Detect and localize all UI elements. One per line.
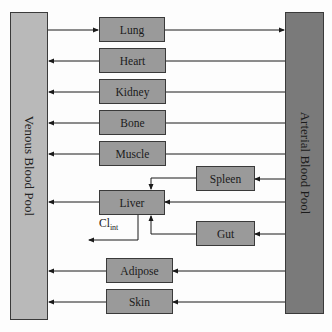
arrow-gut-to-liver (151, 216, 196, 234)
organ-gut: Gut (196, 221, 255, 246)
organ-heart: Heart (99, 48, 166, 73)
clearance-subscript: int (110, 223, 118, 232)
organ-muscle: Muscle (99, 141, 166, 166)
organ-spleen: Spleen (196, 166, 255, 191)
arterial-blood-pool-label: Arterial Blood Pool (297, 112, 313, 215)
organ-lung: Lung (99, 17, 165, 42)
arrow-spleen-to-liver (151, 178, 196, 189)
organ-liver: Liver (99, 190, 165, 215)
venous-blood-pool-label: Venous Blood Pool (21, 116, 37, 216)
organ-kidney: Kidney (99, 79, 166, 104)
pbpk-diagram: Venous Blood Pool Arterial Blood Pool Lu… (0, 0, 332, 332)
venous-blood-pool: Venous Blood Pool (10, 12, 48, 320)
organ-bone: Bone (99, 110, 166, 135)
arterial-blood-pool: Arterial Blood Pool (285, 12, 324, 314)
clearance-base: Cl (99, 217, 110, 229)
organ-skin: Skin (106, 289, 173, 314)
organ-adipose: Adipose (106, 258, 173, 283)
intrinsic-clearance-label: Clint (99, 217, 118, 232)
